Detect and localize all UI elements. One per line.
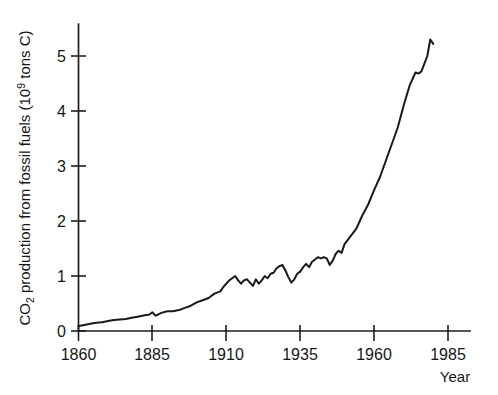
x-tick-label-1860: 1860 (61, 346, 97, 363)
x-tick-label-1910: 1910 (208, 346, 244, 363)
y-tick-label-4: 4 (57, 103, 66, 120)
co2-production-series-line (79, 40, 434, 327)
co2-production-line-chart: 0 1 2 3 4 5 1860 1885 1910 1935 1960 198… (0, 0, 498, 395)
y-tick-label-0: 0 (57, 323, 66, 340)
y-axis-title: CO2 production from fossil fuels (109 to… (15, 30, 36, 325)
x-axis-tick-labels: 1860 1885 1910 1935 1960 1985 (61, 346, 466, 363)
y-axis-title-middle: production from fossil fuels (10 (16, 89, 33, 297)
y-tick-label-1: 1 (57, 268, 66, 285)
svg-text:CO2 production from fossil fue: CO2 production from fossil fuels (109 to… (15, 30, 36, 325)
x-tick-label-1935: 1935 (282, 346, 318, 363)
y-tick-label-3: 3 (57, 158, 66, 175)
y-axis-tick-labels: 0 1 2 3 4 5 (57, 48, 66, 340)
x-axis-title: Year (440, 368, 470, 385)
y-tick-label-2: 2 (57, 213, 66, 230)
y-axis-title-suffix: tons C) (16, 30, 33, 83)
y-axis-title-prefix: CO (16, 303, 33, 326)
chart-figure: 0 1 2 3 4 5 1860 1885 1910 1935 1960 198… (0, 0, 498, 395)
y-tick-label-5: 5 (57, 48, 66, 65)
x-tick-label-1885: 1885 (134, 346, 170, 363)
x-tick-label-1960: 1960 (356, 346, 392, 363)
x-tick-label-1985: 1985 (430, 346, 466, 363)
x-axis-ticks (79, 325, 449, 341)
